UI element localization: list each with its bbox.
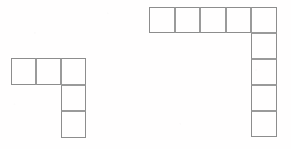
figure-canvas bbox=[0, 0, 291, 149]
grid-cell bbox=[61, 111, 86, 138]
grid-cell bbox=[11, 58, 36, 85]
grid-cell bbox=[251, 111, 277, 137]
grid-cell bbox=[251, 85, 277, 111]
grid-cell bbox=[175, 7, 201, 33]
grid-cell bbox=[200, 7, 226, 33]
grid-cell bbox=[251, 7, 277, 33]
grid-cell bbox=[251, 33, 277, 59]
grid-cell bbox=[61, 85, 86, 112]
grid-cell bbox=[226, 7, 252, 33]
grid-cell bbox=[251, 59, 277, 85]
grid-cell bbox=[61, 58, 86, 85]
grid-cell bbox=[149, 7, 175, 33]
grid-cell bbox=[36, 58, 61, 85]
